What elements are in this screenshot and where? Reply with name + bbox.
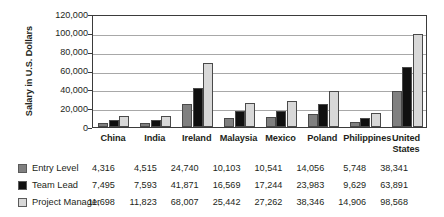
table-row: Entry Level4,3164,51524,74010,10310,5411… (0, 161, 444, 178)
x-axis-category-label: Malaysia (218, 133, 260, 144)
bar (318, 104, 328, 127)
table-cell: 14,056 (296, 162, 324, 174)
y-axis-tick-label: 40,000 (26, 86, 88, 95)
table-cell: 5,748 (343, 162, 366, 174)
bar (193, 88, 203, 127)
table-cell: 11,823 (130, 196, 157, 208)
legend-swatch (18, 164, 27, 173)
table-cell: 17,244 (255, 179, 283, 191)
y-axis-tick-label: 20,000 (26, 105, 88, 114)
table-cell: 68,007 (171, 196, 199, 208)
bar-group (308, 16, 339, 127)
bar (161, 116, 171, 127)
bar (119, 116, 129, 127)
y-axis-tick-label: 0 (26, 124, 88, 133)
table-cell: 25,442 (213, 196, 241, 208)
y-axis-tick-label: 120,000 (26, 11, 88, 20)
table-cell: 24,740 (171, 162, 199, 174)
bar (276, 111, 286, 127)
salary-by-country-chart: Salary in U.S. Dollars 020,00040,00060,0… (0, 0, 444, 217)
bar-group (350, 16, 381, 127)
x-axis-category-label: Ireland (176, 133, 218, 144)
bar (98, 123, 108, 127)
table-cell: 10,103 (213, 162, 241, 174)
legend-series-label: Entry Level (32, 162, 79, 174)
bar (235, 111, 245, 127)
table-row: Team Lead7,4957,59341,87116,56917,24423,… (0, 178, 444, 195)
table-cell: 38,341 (380, 162, 408, 174)
bar (224, 118, 234, 128)
bar-group (392, 16, 423, 127)
table-cell: 11,698 (88, 196, 115, 208)
bar-group (266, 16, 297, 127)
table-cell: 4,316 (92, 162, 115, 174)
legend-swatch (18, 181, 27, 190)
bar (402, 67, 412, 127)
bar (140, 123, 150, 127)
x-axis-category-label: Poland (301, 133, 343, 144)
bar (287, 101, 297, 127)
bar (308, 114, 318, 127)
table-cell: 7,593 (134, 179, 157, 191)
bar (413, 34, 423, 127)
legend-swatch (18, 198, 27, 207)
table-cell: 10,541 (255, 162, 283, 174)
y-axis-tick-label: 80,000 (26, 48, 88, 57)
bar (392, 91, 402, 127)
table-cell: 14,906 (338, 196, 366, 208)
table-cell: 9,629 (343, 179, 366, 191)
bar (360, 118, 370, 127)
bar (151, 120, 161, 127)
bar (266, 117, 276, 127)
table-row: Project Manager11,69811,82368,00725,4422… (0, 195, 444, 212)
table-cell: 7,495 (92, 179, 115, 191)
bar (182, 104, 192, 127)
y-axis-tick-label: 60,000 (26, 67, 88, 76)
bar-group (182, 16, 213, 127)
bar-group (140, 16, 171, 127)
table-cell: 38,346 (296, 196, 324, 208)
bar-groups (93, 16, 426, 127)
legend-data-table: Entry Level4,3164,51524,74010,10310,5411… (0, 161, 444, 212)
table-cell: 98,568 (380, 196, 408, 208)
bar (203, 63, 213, 127)
bar-group (224, 16, 255, 127)
table-cell: 16,569 (213, 179, 241, 191)
bar (109, 120, 119, 127)
bar (329, 91, 339, 127)
plot-area (92, 15, 427, 128)
x-axis-category-label: China (92, 133, 134, 144)
x-axis-category-label: United States (385, 133, 427, 154)
bar-group (98, 16, 129, 127)
x-axis-category-label: Mexico (260, 133, 302, 144)
x-axis-category-label: India (134, 133, 176, 144)
table-cell: 4,515 (134, 162, 157, 174)
bar (245, 103, 255, 127)
table-cell: 41,871 (171, 179, 199, 191)
table-cell: 63,891 (380, 179, 408, 191)
table-cell: 23,983 (296, 179, 324, 191)
y-axis-tick-label: 100,000 (26, 29, 88, 38)
bar (371, 113, 381, 127)
legend-series-label: Team Lead (32, 179, 78, 191)
x-axis-category-label: Philippines (343, 133, 385, 144)
bar (350, 122, 360, 127)
table-cell: 27,262 (255, 196, 283, 208)
y-axis-tick-mark (88, 128, 92, 129)
